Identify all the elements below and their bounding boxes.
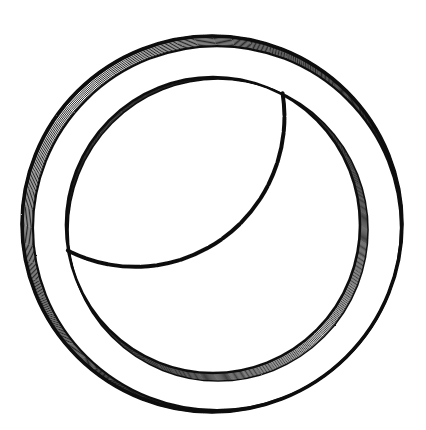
outer-ring-contour <box>22 36 402 412</box>
inner-ring-contour <box>66 77 368 381</box>
ring-illustration <box>0 0 426 430</box>
